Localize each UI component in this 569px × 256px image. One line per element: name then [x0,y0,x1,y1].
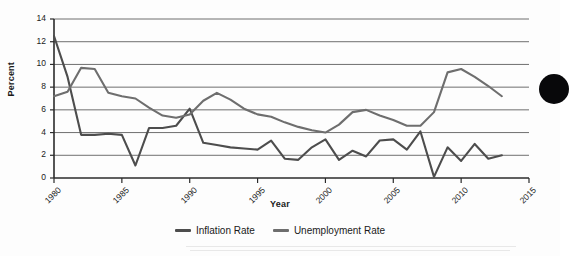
y-tick-label: 8 [24,81,46,91]
legend-label: Inflation Rate [196,225,255,236]
legend-item[interactable]: Inflation Rate [175,225,255,236]
legend-item[interactable]: Unemployment Rate [273,225,385,236]
legend-swatch-icon [175,229,191,232]
scan-artifact-line [190,250,510,251]
y-tick-label: 2 [24,149,46,159]
chart-legend: Inflation RateUnemployment Rate [0,225,560,236]
y-tick-label: 4 [24,127,46,137]
x-axis-title: Year [0,199,560,209]
y-tick-label: 0 [24,172,46,182]
scan-artifact-line [186,246,516,247]
legend-swatch-icon [273,229,289,232]
y-tick-label: 14 [24,13,46,23]
y-tick-label: 10 [24,58,46,68]
y-tick-label: 6 [24,104,46,114]
series-line [54,68,502,133]
page-edge-dot-icon [539,74,569,104]
y-tick-label: 12 [24,36,46,46]
legend-label: Unemployment Rate [294,225,385,236]
